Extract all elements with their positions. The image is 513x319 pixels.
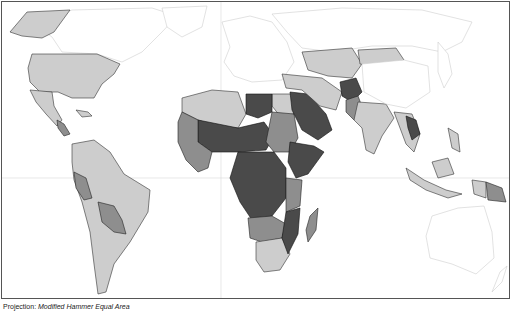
region-central-asia[interactable] [302, 48, 362, 78]
region-east-africa[interactable] [286, 178, 302, 212]
region-central-america[interactable] [57, 120, 70, 136]
region-papua-new-guinea[interactable] [486, 182, 506, 202]
map-frame [1, 1, 510, 299]
projection-label: Projection: [3, 303, 36, 310]
region-central-africa[interactable] [230, 152, 286, 220]
projection-caption: Projection: Modified Hammer Equal Area [3, 303, 130, 310]
region-philippines[interactable] [448, 128, 460, 152]
region-libya[interactable] [246, 94, 272, 118]
projection-value: Modified Hammer Equal Area [38, 303, 130, 310]
region-horn-of-africa[interactable] [288, 142, 324, 178]
region-greenland[interactable] [162, 6, 207, 37]
world-map[interactable] [2, 2, 510, 299]
region-caribbean[interactable] [76, 110, 92, 117]
region-madagascar[interactable] [306, 208, 318, 242]
region-borneo[interactable] [432, 158, 454, 178]
region-russia[interactable] [272, 8, 472, 52]
region-new-zealand[interactable] [492, 266, 507, 292]
region-india[interactable] [354, 102, 394, 154]
region-china[interactable] [362, 60, 430, 108]
region-new-guinea-west[interactable] [472, 180, 486, 198]
region-australia[interactable] [426, 206, 494, 274]
